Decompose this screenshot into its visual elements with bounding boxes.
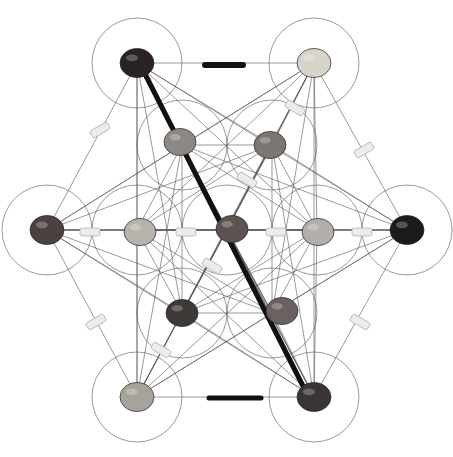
- quartz-point: [89, 122, 110, 139]
- stone-inner-top-right: [254, 131, 286, 158]
- crystal-grid: [0, 0, 453, 457]
- stone-top-left: [120, 49, 154, 78]
- quartz-point: [85, 314, 106, 331]
- quartz-point: [150, 342, 171, 359]
- quartz-point: [176, 228, 196, 236]
- stone-inner-bottom-left: [166, 299, 198, 326]
- stone-inner-left: [124, 218, 156, 245]
- quartz-point: [266, 228, 286, 236]
- stone-inner-top-left: [164, 128, 196, 155]
- stone-right: [390, 216, 424, 245]
- quartz-point: [353, 142, 374, 159]
- stone-top-right: [297, 49, 331, 78]
- stone-left: [30, 216, 64, 245]
- stone-bottom-right: [297, 383, 331, 412]
- stone-center: [216, 215, 248, 242]
- quartz-point: [80, 228, 100, 236]
- quartz-point: [352, 228, 372, 236]
- stone-inner-bottom-right: [266, 297, 298, 324]
- stone-inner-right: [302, 218, 334, 245]
- stone-bottom-left: [120, 383, 154, 412]
